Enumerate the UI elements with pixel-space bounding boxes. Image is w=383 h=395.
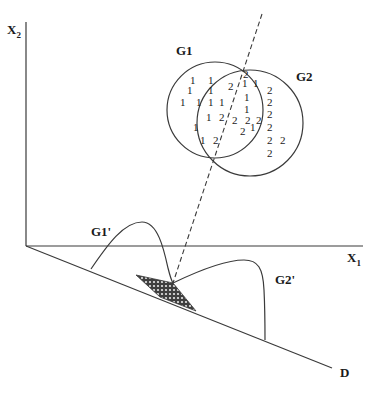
group2-point: 2: [245, 114, 251, 126]
d-axis-label: D: [340, 365, 349, 380]
group2-point: 2: [232, 114, 238, 126]
group2-point: 2: [267, 96, 273, 108]
group2-points: 222222222222222: [213, 68, 286, 159]
x2-axis-label: X2: [7, 22, 21, 40]
group2-point: 2: [267, 121, 273, 133]
group1-point: 1: [208, 84, 214, 96]
group1-points: 1111111111111111: [180, 74, 259, 146]
group1-point: 1: [200, 134, 206, 146]
group1-point: 1: [196, 96, 202, 108]
group2-point: 2: [240, 125, 246, 137]
group1-point: 1: [208, 96, 214, 108]
group1-point: 1: [250, 121, 256, 133]
group1-point: 1: [193, 121, 199, 133]
x1-axis-label: X1: [347, 250, 361, 268]
group2-point: 2: [213, 134, 219, 146]
group2-point: 2: [280, 134, 286, 146]
d-axis: [26, 246, 332, 368]
g1-projected-label: G1': [91, 224, 111, 239]
group1-point: 1: [206, 111, 212, 123]
group2-label: G2: [296, 69, 313, 84]
g2-projected-label: G2': [275, 272, 295, 287]
group1-point: 1: [219, 96, 225, 108]
group2-point: 2: [228, 80, 234, 92]
group1-point: 1: [180, 96, 186, 108]
group1-point: 1: [187, 84, 193, 96]
group2-point: 2: [267, 134, 273, 146]
group1-point: 1: [253, 77, 259, 89]
group2-point: 2: [267, 147, 273, 159]
group2-point: 2: [267, 84, 273, 96]
lda-projection-diagram: X2 X1 D G1 G2 1111111111111111 222222222…: [0, 0, 383, 395]
group1-point: 1: [244, 91, 250, 103]
group1-label: G1: [176, 43, 193, 58]
group2-point: 2: [267, 108, 273, 120]
group2-point: 2: [256, 114, 262, 126]
group2-point: 2: [219, 111, 225, 123]
